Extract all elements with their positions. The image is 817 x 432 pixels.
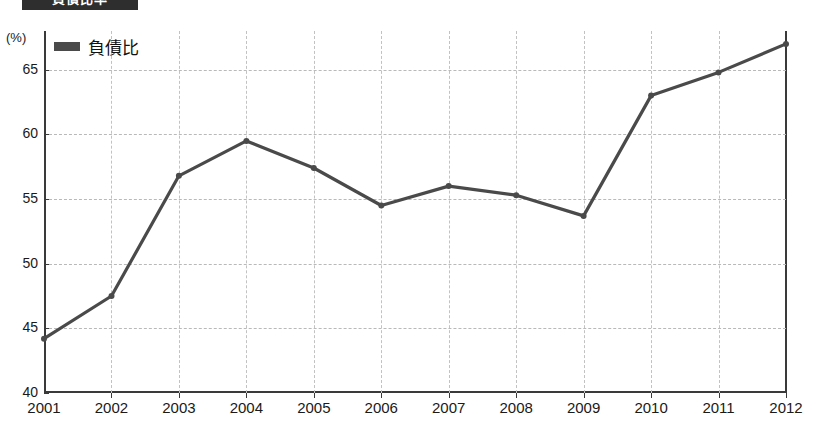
y-tick-mark	[44, 199, 49, 200]
x-tick-label: 2010	[621, 399, 681, 416]
y-tick-mark	[44, 393, 49, 394]
x-tick-label: 2005	[284, 399, 344, 416]
x-tick-label: 2001	[14, 399, 74, 416]
x-tick-mark	[246, 393, 247, 398]
x-tick-mark	[651, 393, 652, 398]
x-tick-mark	[449, 393, 450, 398]
x-tick-label: 2009	[554, 399, 614, 416]
y-tick-mark	[44, 70, 49, 71]
y-tick-mark	[44, 328, 49, 329]
gridline-horizontal	[44, 264, 786, 265]
gridline-horizontal	[44, 328, 786, 329]
y-tick-label: 50	[2, 256, 38, 270]
chart-root: 負債比率 (%) 404550556065 200120022003200420…	[0, 0, 817, 432]
x-tick-label: 2008	[486, 399, 546, 416]
y-tick-label: 40	[2, 385, 38, 399]
x-tick-mark	[584, 393, 585, 398]
x-tick-label: 2004	[216, 399, 276, 416]
y-tick-label: 60	[2, 126, 38, 140]
gridline-horizontal	[44, 199, 786, 200]
y-tick-mark	[44, 134, 49, 135]
x-tick-mark	[111, 393, 112, 398]
chart-legend: 負債比	[54, 34, 139, 59]
plot-right-border	[785, 31, 787, 393]
x-tick-mark	[381, 393, 382, 398]
y-tick-label: 55	[2, 191, 38, 205]
legend-swatch-debt-ratio	[54, 42, 80, 51]
gridline-vertical	[719, 31, 720, 393]
gridline-vertical	[584, 31, 585, 393]
x-tick-mark	[719, 393, 720, 398]
gridline-vertical	[449, 31, 450, 393]
y-tick-mark	[44, 264, 49, 265]
x-tick-label: 2007	[419, 399, 479, 416]
x-tick-mark	[314, 393, 315, 398]
gridline-vertical	[381, 31, 382, 393]
x-tick-mark	[516, 393, 517, 398]
y-tick-label: 65	[2, 62, 38, 76]
legend-label-debt-ratio: 負債比	[88, 34, 139, 59]
gridline-vertical	[246, 31, 247, 393]
plot-area	[44, 31, 786, 393]
x-tick-label: 2003	[149, 399, 209, 416]
gridline-horizontal	[44, 70, 786, 71]
y-tick-label: 45	[2, 320, 38, 334]
gridline-vertical	[314, 31, 315, 393]
gridline-horizontal	[44, 134, 786, 135]
y-axis-unit-label: (%)	[6, 30, 26, 45]
gridline-vertical	[111, 31, 112, 393]
x-tick-label: 2011	[689, 399, 749, 416]
gridline-vertical	[179, 31, 180, 393]
x-tick-label: 2006	[351, 399, 411, 416]
x-tick-label: 2002	[81, 399, 141, 416]
x-tick-mark	[786, 393, 787, 398]
x-tick-label: 2012	[756, 399, 816, 416]
chart-title-bar: 負債比率	[22, 0, 138, 10]
x-tick-mark	[179, 393, 180, 398]
gridline-vertical	[516, 31, 517, 393]
gridline-vertical	[651, 31, 652, 393]
